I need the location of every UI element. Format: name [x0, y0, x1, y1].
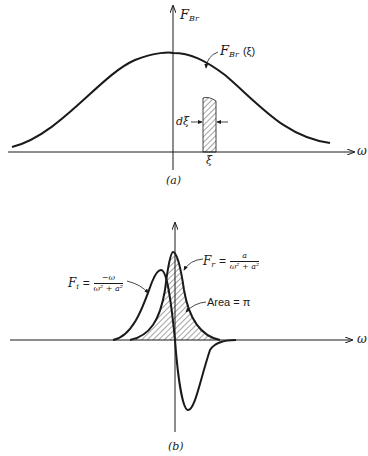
xi-label: ξ — [206, 155, 212, 166]
strip-label: FBr (ξ) — [220, 44, 255, 59]
panel-b — [10, 223, 352, 432]
fr-label: Fr = aω² + a² — [203, 252, 259, 271]
panel-a — [8, 6, 354, 170]
y-axis-label-a: FBr — [180, 8, 199, 23]
area-label: Area = π — [207, 297, 250, 308]
fi-leader — [127, 281, 148, 293]
strip-hatched — [203, 97, 216, 152]
fi-label: Fi = −ωω² + a² — [68, 274, 123, 293]
gaussian-curve — [12, 53, 330, 147]
diagram-canvas — [0, 0, 368, 456]
caption-a: (a) — [166, 175, 181, 186]
fr-leader — [184, 259, 203, 270]
x-axis-label-a: ω — [357, 145, 367, 157]
width-label: dξ — [176, 116, 189, 127]
x-axis-label-b: ω — [357, 333, 367, 345]
caption-b: (b) — [168, 441, 184, 452]
